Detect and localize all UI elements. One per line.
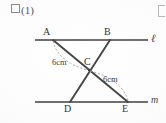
length-label-ce: 6cm [103, 75, 118, 84]
line-label-m: m [151, 95, 158, 105]
length-label-ac: 6cm [52, 58, 67, 67]
figure-page: (1) A B C D E ℓ m 6cm 6cm [0, 0, 166, 123]
vertex-label-a: A [43, 27, 50, 37]
vertex-label-c: C [84, 57, 91, 67]
line-label-l: ℓ [151, 33, 156, 44]
vertex-label-e: E [122, 104, 128, 114]
point-c-marker [88, 69, 90, 71]
vertex-label-d: D [64, 104, 71, 114]
vertex-label-b: B [104, 27, 111, 37]
geometry-figure [0, 0, 166, 123]
